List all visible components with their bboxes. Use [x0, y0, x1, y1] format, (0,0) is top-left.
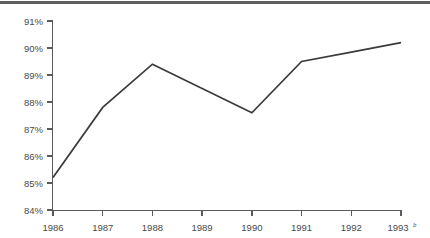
x-tick-label: 1987: [92, 222, 113, 233]
x-axis-ticks: [53, 211, 401, 217]
x-tick-label: 1991: [291, 222, 312, 233]
y-tick-label: 86%: [24, 151, 44, 162]
line-chart-svg: 91% 90% 89% 88% 87% 86% 85% 84% 1986 198…: [0, 0, 430, 238]
x-axis-tick-labels: 1986 1987 1988 1989 1990 1991 1992 1993 …: [42, 221, 417, 233]
x-tick-footnote-superscript: b: [413, 221, 417, 229]
y-tick-label: 89%: [24, 70, 44, 81]
y-tick-label: 90%: [24, 43, 44, 54]
y-axis-ticks: [47, 21, 53, 210]
x-tick-label: 1986: [42, 222, 63, 233]
chart-plot-area: 91% 90% 89% 88% 87% 86% 85% 84% 1986 198…: [0, 0, 430, 238]
y-axis-tick-labels: 91% 90% 89% 88% 87% 86% 85% 84%: [24, 16, 44, 216]
y-tick-label: 84%: [24, 205, 44, 216]
x-tick-label: 1992: [341, 222, 362, 233]
data-series-line: [53, 43, 401, 178]
x-tick-label: 1988: [142, 222, 163, 233]
y-tick-label: 87%: [24, 124, 44, 135]
y-tick-label: 91%: [24, 16, 44, 27]
x-tick-label: 1990: [241, 222, 262, 233]
y-tick-label: 88%: [24, 97, 44, 108]
y-tick-label: 85%: [24, 178, 44, 189]
x-tick-label: 1989: [192, 222, 213, 233]
chart-figure: 91% 90% 89% 88% 87% 86% 85% 84% 1986 198…: [0, 0, 430, 238]
x-tick-label: 1993: [387, 222, 408, 233]
